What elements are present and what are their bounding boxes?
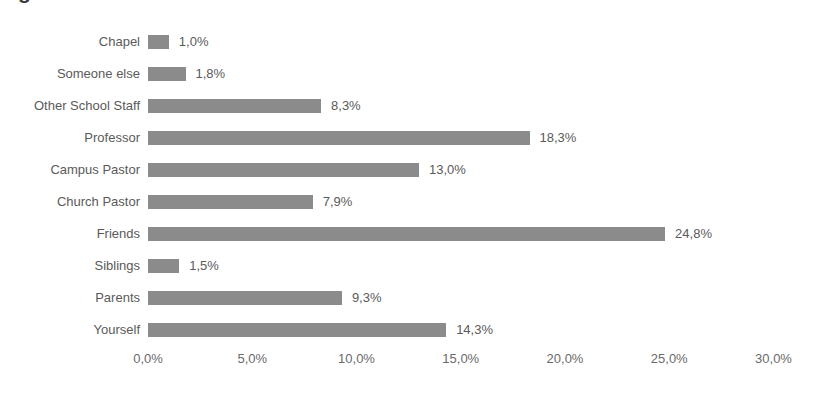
- bar-value-label: 9,3%: [352, 282, 382, 314]
- category-label: Church Pastor: [0, 186, 140, 218]
- category-label: Chapel: [0, 26, 140, 58]
- bar[interactable]: [148, 323, 446, 337]
- bar-value-label: 8,3%: [331, 90, 361, 122]
- bar[interactable]: [148, 67, 186, 81]
- plot-area: Chapel1,0%Someone else1,8%Other School S…: [0, 0, 816, 401]
- x-tick-label: 20,0%: [547, 348, 584, 370]
- bar-row: Chapel1,0%: [0, 26, 816, 58]
- category-label: Campus Pastor: [0, 154, 140, 186]
- bar[interactable]: [148, 99, 321, 113]
- category-label: Siblings: [0, 250, 140, 282]
- bar-value-label: 24,8%: [675, 218, 712, 250]
- bar-value-label: 7,9%: [323, 186, 353, 218]
- bar-row: Parents9,3%: [0, 282, 816, 314]
- bar-row: Friends24,8%: [0, 218, 816, 250]
- bar[interactable]: [148, 195, 313, 209]
- x-tick-label: 15,0%: [442, 348, 479, 370]
- bar-row: Campus Pastor13,0%: [0, 154, 816, 186]
- bar-row: Someone else1,8%: [0, 58, 816, 90]
- bar[interactable]: [148, 227, 665, 241]
- bar-chart: g Chapel1,0%Someone else1,8%Other School…: [0, 0, 816, 401]
- bar-value-label: 13,0%: [429, 154, 466, 186]
- bar-row: Church Pastor7,9%: [0, 186, 816, 218]
- x-axis: 0,0%5,0%10,0%15,0%20,0%25,0%30,0%: [0, 348, 816, 378]
- bar[interactable]: [148, 291, 342, 305]
- bar-value-label: 1,0%: [179, 26, 209, 58]
- category-label: Parents: [0, 282, 140, 314]
- category-label: Professor: [0, 122, 140, 154]
- x-tick-label: 0,0%: [133, 348, 163, 370]
- bar[interactable]: [148, 163, 419, 177]
- bar[interactable]: [148, 35, 169, 49]
- bar-value-label: 1,8%: [196, 58, 226, 90]
- x-tick-label: 5,0%: [237, 348, 267, 370]
- bar-value-label: 1,5%: [189, 250, 219, 282]
- bar[interactable]: [148, 259, 179, 273]
- bar-value-label: 14,3%: [456, 314, 493, 346]
- bar-row: Yourself14,3%: [0, 314, 816, 346]
- bar-row: Other School Staff8,3%: [0, 90, 816, 122]
- category-label: Yourself: [0, 314, 140, 346]
- category-label: Friends: [0, 218, 140, 250]
- category-label: Other School Staff: [0, 90, 140, 122]
- x-tick-label: 10,0%: [338, 348, 375, 370]
- bar-row: Siblings1,5%: [0, 250, 816, 282]
- x-tick-label: 25,0%: [651, 348, 688, 370]
- x-tick-label: 30,0%: [755, 348, 792, 370]
- bar-value-label: 18,3%: [540, 122, 577, 154]
- category-label: Someone else: [0, 58, 140, 90]
- bar-row: Professor18,3%: [0, 122, 816, 154]
- bar[interactable]: [148, 131, 530, 145]
